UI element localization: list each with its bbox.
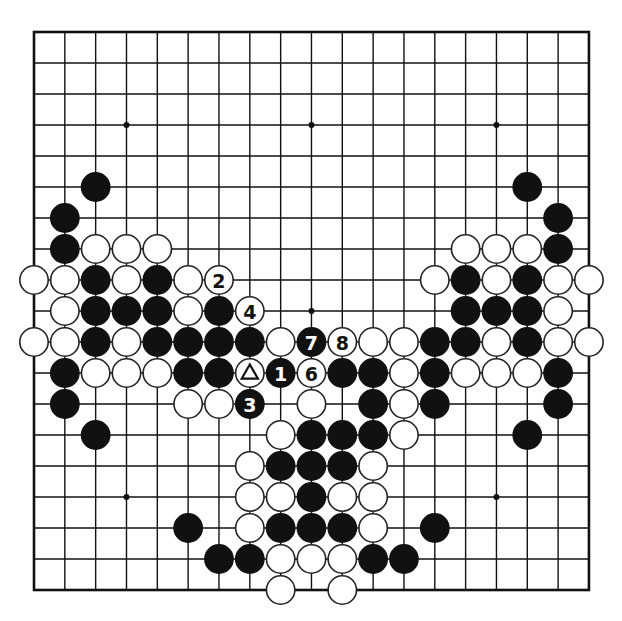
black-stone — [297, 452, 325, 480]
black-stone — [205, 297, 233, 325]
white-stone — [266, 421, 294, 449]
star-point — [123, 122, 129, 128]
white-stone — [390, 328, 418, 356]
black-stone — [51, 204, 79, 232]
white-stone — [359, 328, 387, 356]
white-stone — [81, 359, 109, 387]
black-stone — [205, 328, 233, 356]
white-stone — [544, 328, 572, 356]
white-stone — [297, 390, 325, 418]
black-stone — [328, 359, 356, 387]
white-stone — [174, 266, 202, 294]
black-stone — [513, 173, 541, 201]
black-stone — [451, 328, 479, 356]
white-stone — [359, 514, 387, 542]
white-stone — [359, 452, 387, 480]
black-stone — [513, 328, 541, 356]
black-stone — [51, 235, 79, 263]
white-stone — [544, 297, 572, 325]
white-stone — [81, 235, 109, 263]
white-stone — [513, 235, 541, 263]
black-stone — [451, 266, 479, 294]
white-stone — [575, 266, 603, 294]
black-stone — [421, 359, 449, 387]
black-stone — [174, 328, 202, 356]
black-stone — [205, 359, 233, 387]
black-stone — [421, 390, 449, 418]
white-stone — [482, 266, 510, 294]
black-stone — [421, 514, 449, 542]
black-stone — [266, 514, 294, 542]
black-stone — [81, 266, 109, 294]
star-point — [493, 122, 499, 128]
star-point — [493, 494, 499, 500]
white-stone — [451, 235, 479, 263]
black-stone — [359, 390, 387, 418]
black-stone — [482, 297, 510, 325]
white-stone — [328, 545, 356, 573]
white-stone — [20, 266, 48, 294]
white-stone — [266, 545, 294, 573]
white-stone — [390, 390, 418, 418]
black-stone — [297, 483, 325, 511]
white-stone — [112, 359, 140, 387]
white-stone — [451, 359, 479, 387]
white-stone — [390, 359, 418, 387]
black-stone — [359, 545, 387, 573]
white-stone — [143, 235, 171, 263]
black-stone — [174, 359, 202, 387]
white-stone — [143, 359, 171, 387]
white-stone — [297, 545, 325, 573]
black-stone — [513, 266, 541, 294]
black-stone — [297, 421, 325, 449]
black-stone — [266, 452, 294, 480]
move-number-8: 8 — [336, 332, 349, 354]
white-stone — [482, 235, 510, 263]
white-stone — [112, 235, 140, 263]
black-stone — [81, 421, 109, 449]
white-stone — [51, 297, 79, 325]
white-stone — [20, 328, 48, 356]
white-stone — [236, 483, 264, 511]
black-stone — [359, 421, 387, 449]
move-number-3: 3 — [243, 394, 256, 416]
white-stone — [513, 359, 541, 387]
white-stone — [328, 576, 356, 604]
white-stone — [174, 390, 202, 418]
black-stone — [513, 297, 541, 325]
black-stone — [451, 297, 479, 325]
black-stone — [143, 328, 171, 356]
move-number-6: 6 — [305, 363, 318, 385]
black-stone — [174, 514, 202, 542]
star-point — [123, 494, 129, 500]
black-stone — [143, 266, 171, 294]
go-board: 1234678 — [0, 0, 622, 621]
star-point — [308, 308, 314, 314]
black-stone — [421, 328, 449, 356]
black-stone — [81, 328, 109, 356]
go-board-diagram: 1234678 — [0, 0, 622, 621]
black-stone — [328, 514, 356, 542]
white-stone — [51, 328, 79, 356]
black-stone — [81, 297, 109, 325]
white-stone — [51, 266, 79, 294]
white-stone — [482, 359, 510, 387]
move-number-2: 2 — [212, 270, 225, 292]
black-stone — [328, 421, 356, 449]
white-stone — [236, 452, 264, 480]
black-stone — [544, 359, 572, 387]
white-stone — [482, 328, 510, 356]
black-stone — [544, 390, 572, 418]
white-stone — [205, 390, 233, 418]
white-stone — [112, 266, 140, 294]
white-stone — [359, 483, 387, 511]
black-stone — [390, 545, 418, 573]
white-stone — [112, 328, 140, 356]
black-stone — [544, 204, 572, 232]
white-stone — [544, 266, 572, 294]
white-stone — [421, 266, 449, 294]
white-stone — [266, 483, 294, 511]
move-number-1: 1 — [274, 363, 287, 385]
black-stone — [328, 452, 356, 480]
white-stone — [266, 328, 294, 356]
